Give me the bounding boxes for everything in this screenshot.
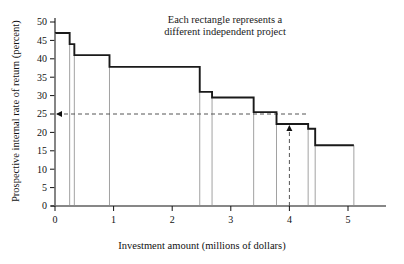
- x-tick-label: 1: [111, 214, 116, 225]
- y-tick-label: 35: [37, 72, 47, 83]
- step-function-outline: [55, 33, 354, 145]
- x-tick-label: 4: [287, 214, 292, 225]
- y-axis-label: Prospective internal rate of return (per…: [10, 20, 22, 202]
- marker-line-arrow-icon: [286, 125, 292, 131]
- y-tick-label: 15: [37, 145, 47, 156]
- y-tick-label: 50: [37, 16, 47, 27]
- chart-root: Prospective internal rate of return (per…: [0, 0, 404, 264]
- x-tick-label: 3: [228, 214, 233, 225]
- x-tick-label: 5: [346, 214, 351, 225]
- reference-line-arrow-icon: [56, 111, 62, 117]
- y-tick-label: 30: [37, 90, 47, 101]
- annotation-line-2: different independent project: [164, 26, 286, 37]
- x-axis-label: Investment amount (millions of dollars): [118, 240, 286, 252]
- annotation-line-1: Each rectangle represents a: [168, 14, 283, 25]
- x-tick-label: 0: [53, 214, 58, 225]
- y-tick-label: 20: [37, 127, 47, 138]
- y-tick-label: 0: [42, 200, 47, 211]
- y-tick-label: 45: [37, 35, 47, 46]
- y-tick-label: 25: [37, 108, 47, 119]
- y-tick-label: 5: [42, 182, 47, 193]
- y-tick-label: 10: [37, 164, 47, 175]
- irr-step-chart: Prospective internal rate of return (per…: [0, 0, 404, 264]
- plot-area: 05101520253035404550012345: [37, 16, 386, 225]
- x-tick-label: 2: [170, 214, 175, 225]
- y-tick-label: 40: [37, 53, 47, 64]
